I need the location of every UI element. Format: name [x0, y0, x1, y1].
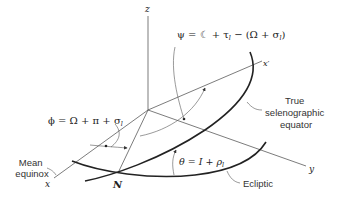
x-prime-axis-label: x′ — [263, 59, 270, 68]
z-axis-label: z — [144, 4, 150, 14]
y-axis-label: y — [308, 164, 315, 174]
psi-angle-arc — [140, 88, 205, 136]
theta-angle-arc — [173, 150, 176, 175]
x-prime-axis — [148, 61, 262, 110]
mean-equinox-label: Mean equinox — [15, 157, 49, 179]
ecliptic-leader — [227, 171, 240, 183]
selenographic-coordinates-diagram: z x x′ y N ψ = ☾ + τl − (Ω + σl) ϕ = Ω +… — [0, 0, 351, 204]
psi-leader — [173, 47, 184, 119]
true-equator-label: True selenographic equator — [265, 95, 327, 130]
psi-equation: ψ = ☾ + τl − (Ω + σl) — [177, 29, 286, 42]
true-equator-leader — [247, 102, 262, 110]
phi-dot — [105, 145, 108, 148]
node-label: N — [112, 179, 123, 190]
phi-equation: ϕ = Ω + π + σl — [48, 115, 123, 128]
x-axis-label: x — [45, 179, 50, 189]
theta-equation: θ = I + ρl — [179, 156, 224, 169]
ecliptic-curve — [72, 142, 266, 177]
ecliptic-label: Ecliptic — [243, 178, 273, 189]
